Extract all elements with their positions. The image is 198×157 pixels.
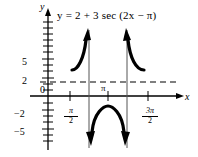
upper-right-branch: [123, 28, 144, 70]
x-tick-pi-over-2-numerator: π: [64, 107, 78, 115]
x-tick-label-3pi-over-2: 3π 2: [142, 107, 158, 126]
x-tick-pi-over-2-denominator: 2: [64, 117, 78, 125]
x-tick-label-pi-over-2: π 2: [64, 107, 78, 126]
y-tick-label-5: 5: [22, 57, 27, 67]
x-axis-label: x: [185, 92, 189, 102]
x-tick-3pi-over-2-numerator: 3π: [142, 107, 158, 115]
lower-middle-branch: [86, 106, 130, 146]
upper-left-branch: [72, 28, 91, 70]
equation-label: y = 2 + 3 sec (2x − π): [57, 10, 156, 21]
secant-graph-figure: y = 2 + 3 sec (2x − π) y x 5 2 0 −2 −5 π…: [0, 0, 198, 157]
y-tick-label-2: 2: [22, 76, 27, 86]
x-tick-3pi-over-2-denominator: 2: [142, 117, 158, 125]
y-axis-label: y: [40, 2, 44, 12]
graph-canvas: [0, 0, 198, 157]
x-axis: [30, 93, 184, 99]
vertical-asymptotes: [89, 30, 127, 148]
x-tick-label-pi: π: [101, 84, 106, 93]
y-tick-label-minus-2: −2: [14, 109, 25, 119]
origin-label: 0: [40, 85, 45, 95]
y-tick-label-minus-5: −5: [14, 127, 25, 137]
